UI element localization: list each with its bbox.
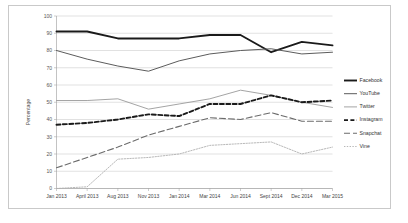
legend-label-facebook: Facebook (360, 77, 383, 83)
legend-label-vine: Vine (360, 143, 370, 149)
x-tick-label: Mar 2015 (322, 193, 343, 199)
x-tick-label: Mar 2014 (199, 193, 220, 199)
y-tick-label: 40 (46, 116, 52, 122)
y-axis-title: Percentage (25, 99, 31, 126)
legend-label-twitter: Twitter (360, 103, 376, 109)
y-tick-label: 50 (46, 99, 52, 105)
line-chart-plot: 0102030405060708090100 Jan 2013April 201… (0, 0, 408, 223)
x-tick-label: Jan 2014 (169, 193, 190, 199)
y-tick-label: 80 (46, 47, 52, 53)
y-tick-label: 10 (46, 168, 52, 174)
y-tick-label: 0 (49, 185, 52, 191)
y-tick-label: 90 (46, 30, 52, 36)
legend-label-instagram: Instagram (360, 116, 383, 122)
y-tick-label: 30 (46, 134, 52, 140)
x-tick-label: Jun 2014 (230, 193, 251, 199)
chart-figure: 0102030405060708090100 Jan 2013April 201… (0, 0, 408, 223)
legend-label-snapchat: Snapchat (360, 130, 382, 136)
y-tick-label: 60 (46, 82, 52, 88)
legend-label-youtube: YouTube (360, 90, 380, 96)
x-tick-label: Sept 2014 (260, 193, 283, 199)
series-line-facebook (57, 32, 333, 53)
y-tick-label: 20 (46, 151, 52, 157)
data-series-group (57, 32, 333, 189)
x-tick-label: April 2013 (76, 193, 99, 199)
y-axis-tick-labels: 0102030405060708090100 (44, 13, 57, 192)
x-tick-label: Aug 2013 (107, 193, 129, 199)
chart-legend: FacebookYouTubeTwitterInstagramSnapchatV… (344, 77, 383, 149)
x-tick-label: Dec 2014 (291, 193, 313, 199)
y-tick-label: 100 (44, 13, 53, 19)
x-axis-tick-labels: Jan 2013April 2013Aug 2013Nov 2013Jan 20… (46, 189, 343, 200)
series-line-vine (57, 142, 333, 189)
gridlines-group (57, 16, 333, 189)
x-tick-label: Nov 2013 (138, 193, 160, 199)
y-tick-label: 70 (46, 65, 52, 71)
x-tick-label: Jan 2013 (46, 193, 67, 199)
